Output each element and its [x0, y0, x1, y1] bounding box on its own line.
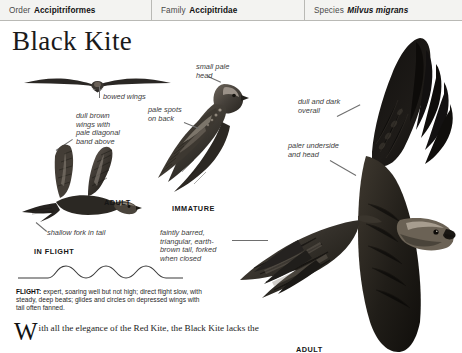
flight-path-diagram: [18, 262, 183, 286]
taxonomy-family-rank: Family: [161, 6, 186, 15]
body: [358, 156, 421, 352]
taxonomy-order-cell: Order Accipitriformes: [0, 0, 152, 21]
illustration-adult-in-flight: [8, 140, 148, 240]
caption-adult-left: ADULT: [104, 198, 131, 207]
caption-in-flight: IN FLIGHT: [34, 247, 74, 256]
flight-label: FLIGHT:: [16, 288, 41, 295]
annotation-paler-underside: paler underside and head: [288, 142, 339, 159]
annotation-shallow-fork: shallow fork in tail: [47, 229, 105, 238]
drop-cap: W: [14, 322, 39, 341]
upper-wing: [372, 38, 453, 167]
field-guide-page: Order Accipitriformes Family Accipitrida…: [0, 0, 462, 353]
flight-text: expert, soaring well but not high; direc…: [16, 288, 202, 311]
annotation-small-pale-head: small pale head: [196, 63, 229, 80]
page-title: Black Kite: [12, 26, 132, 57]
leader-bowed-wings: [99, 86, 100, 98]
annotation-faintly-barred: faintly barred, triangular, earth- brown…: [160, 229, 216, 263]
annotation-pale-spots: pale spots on back: [148, 106, 182, 123]
lower-wing: [240, 220, 360, 298]
illustration-adult-soaring: [240, 24, 462, 353]
body-paragraph: With all the elegance of the Red Kite, t…: [14, 322, 314, 341]
annotation-dull-and-dark: dull and dark overall: [298, 98, 340, 115]
caption-adult-right: ADULT: [296, 345, 323, 353]
caption-immature: IMMATURE: [172, 204, 215, 213]
annotation-bowed-wings: bowed wings: [103, 93, 146, 102]
taxonomy-order-name: Accipitriformes: [34, 6, 96, 15]
taxonomy-header: Order Accipitriformes Family Accipitrida…: [0, 0, 462, 21]
taxonomy-species-rank: Species: [314, 6, 344, 15]
taxonomy-species-cell: Species Milvus migrans: [305, 0, 462, 21]
taxonomy-family-name: Accipitridae: [189, 6, 237, 15]
taxonomy-species-name: Milvus migrans: [347, 6, 408, 15]
flight-description: FLIGHT: expert, soaring well but not hig…: [16, 288, 206, 312]
taxonomy-order-rank: Order: [9, 6, 30, 15]
body-text: ith all the elegance of the Red Kite, th…: [39, 323, 259, 333]
taxonomy-family-cell: Family Accipitridae: [152, 0, 305, 21]
